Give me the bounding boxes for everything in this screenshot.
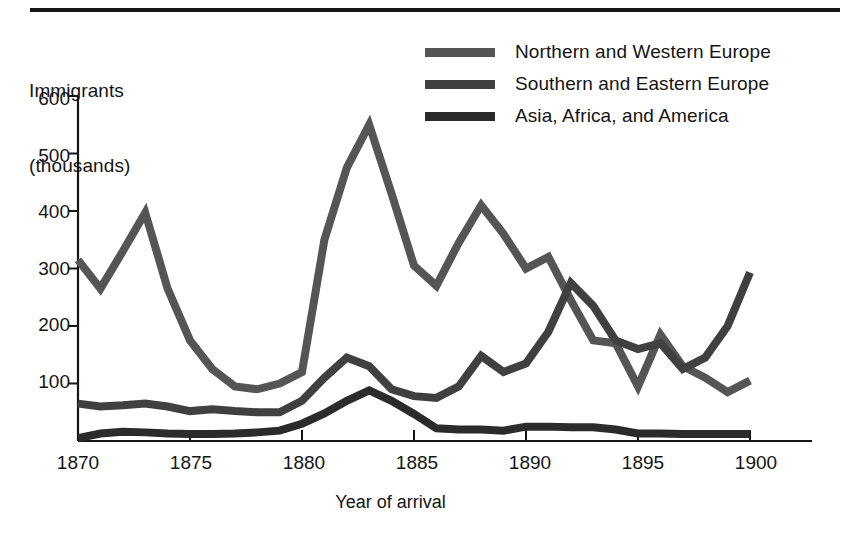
y-tick-label-200: 200: [14, 314, 70, 336]
legend-label-northern-western-europe: Northern and Western Europe: [515, 41, 771, 63]
x-tick-label-1885: 1885: [382, 452, 452, 474]
legend-item-southern-eastern-europe: Southern and Eastern Europe: [425, 68, 771, 100]
x-tick-label-1890: 1890: [495, 452, 565, 474]
x-tick-marks: [78, 430, 750, 441]
x-tick-label-1870: 1870: [43, 452, 113, 474]
x-axis-title-wrap: Year of arrival: [0, 492, 851, 513]
x-tick-label-1900: 1900: [721, 452, 791, 474]
x-tick-label-1880: 1880: [269, 452, 339, 474]
legend-label-asia-africa-america: Asia, Africa, and America: [515, 105, 729, 127]
top-divider-rule: [30, 8, 840, 12]
immigration-line-chart-figure: Immigrants (thousands) Northern and West…: [0, 0, 851, 534]
legend-swatch-northern-western-europe: [425, 48, 495, 57]
y-tick-label-300: 300: [14, 258, 70, 280]
series-line-2: [78, 273, 750, 413]
x-tick-label-1875: 1875: [156, 452, 226, 474]
legend-swatch-southern-eastern-europe: [425, 80, 495, 89]
y-tick-label-500: 500: [14, 145, 70, 167]
data-series-group: [78, 125, 750, 438]
y-axis-title: Immigrants (thousands): [29, 28, 130, 228]
x-tick-label-1895: 1895: [608, 452, 678, 474]
legend-item-asia-africa-america: Asia, Africa, and America: [425, 100, 771, 132]
y-tick-label-400: 400: [14, 201, 70, 223]
chart-legend: Northern and Western Europe Southern and…: [425, 36, 771, 132]
y-tick-label-600: 600: [14, 88, 70, 110]
series-line-3: [78, 390, 750, 438]
legend-swatch-asia-africa-america: [425, 112, 495, 121]
series-line-1: [78, 125, 750, 392]
x-axis-title: Year of arrival: [335, 492, 445, 513]
y-tick-label-100: 100: [14, 371, 70, 393]
axis-lines: [78, 96, 812, 441]
legend-label-southern-eastern-europe: Southern and Eastern Europe: [515, 73, 769, 95]
legend-item-northern-western-europe: Northern and Western Europe: [425, 36, 771, 68]
